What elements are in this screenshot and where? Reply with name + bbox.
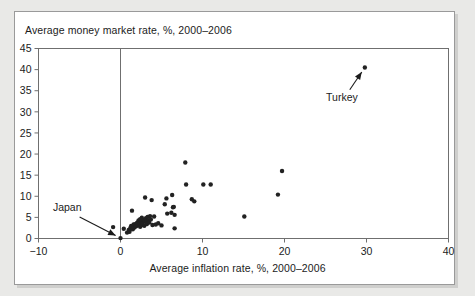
y-tick-label: 20 <box>20 148 32 160</box>
annotation-arrow-head <box>355 72 362 80</box>
y-tick-label: 5 <box>26 211 32 223</box>
y-tick-label: 15 <box>20 169 32 181</box>
y-tick-label: 35 <box>20 84 32 96</box>
y-tick-label: 0 <box>26 232 32 244</box>
data-point <box>363 65 367 69</box>
data-point <box>276 192 280 196</box>
data-point <box>201 182 205 186</box>
y-tick-label: 25 <box>20 127 32 139</box>
x-axis-title: Average inflation rate, %, 2000–2006 <box>0 262 475 274</box>
annotation-label: Japan <box>53 201 82 213</box>
data-point <box>152 214 156 218</box>
data-point <box>118 236 122 240</box>
data-point <box>149 198 153 202</box>
annotation-label: Turkey <box>326 91 358 103</box>
data-point <box>164 196 168 200</box>
data-point <box>172 205 176 209</box>
data-point <box>172 213 176 217</box>
axis-ticks-group <box>35 49 449 243</box>
scatter-plot: 051015202530354045−10010203040 JapanTurk… <box>0 0 475 296</box>
figure-container: Average money market rate, %, 2000–2006 … <box>0 0 475 296</box>
data-point <box>122 227 126 231</box>
x-tick-label: 0 <box>118 245 124 257</box>
y-tick-label: 40 <box>20 63 32 75</box>
annotations-group: JapanTurkey <box>53 72 362 236</box>
data-point <box>170 193 174 197</box>
x-tick-label: −10 <box>30 245 48 257</box>
y-tick-label: 45 <box>20 42 32 54</box>
data-point <box>183 160 187 164</box>
data-point <box>149 217 153 221</box>
data-point <box>159 223 163 227</box>
data-point <box>163 202 167 206</box>
data-point <box>143 195 147 199</box>
data-point <box>130 208 134 212</box>
y-tick-label: 10 <box>20 190 32 202</box>
x-tick-label: 20 <box>279 245 291 257</box>
data-point <box>111 225 115 229</box>
axes-group <box>39 49 449 239</box>
data-point <box>209 182 213 186</box>
x-tick-label: 10 <box>197 245 209 257</box>
x-tick-label: 40 <box>443 245 455 257</box>
data-point <box>165 211 169 215</box>
data-point <box>192 199 196 203</box>
y-tick-label: 30 <box>20 106 32 118</box>
data-point <box>242 214 246 218</box>
data-point <box>172 226 176 230</box>
axis-tick-labels-group: 051015202530354045−10010203040 <box>20 42 455 256</box>
x-tick-label: 30 <box>361 245 373 257</box>
data-point <box>184 182 188 186</box>
data-point <box>280 169 284 173</box>
plot-frame <box>39 49 449 239</box>
